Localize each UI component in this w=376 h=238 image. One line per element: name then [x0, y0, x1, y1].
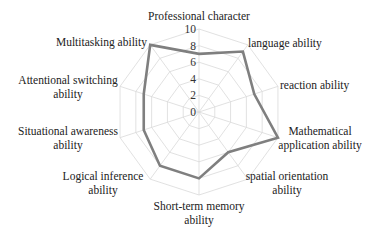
category-label: Short-term memoryability: [153, 200, 244, 227]
category-label: language ability: [248, 37, 322, 50]
radial-tick-labels: 0246810: [185, 23, 197, 118]
category-label: Multitasking ability: [56, 36, 147, 49]
grid-spoke: [120, 86, 199, 112]
radial-tick-label: 0: [190, 106, 196, 118]
grid-spoke: [120, 112, 199, 138]
grid-spoke: [199, 112, 248, 179]
radial-tick-label: 6: [190, 56, 196, 68]
grid-spoke: [199, 45, 248, 112]
category-label: Professional character: [148, 10, 250, 22]
radial-tick-label: 8: [190, 40, 196, 52]
grid-spoke: [150, 112, 199, 179]
category-label: Mathematicalapplication ability: [278, 125, 362, 152]
category-label: Situational awarenessability: [18, 125, 118, 152]
radar-chart: 0246810 Professional characterlanguage a…: [0, 0, 376, 238]
category-label: Attentional switchingability: [18, 74, 118, 101]
grid-spoke: [199, 86, 278, 112]
radial-tick-label: 4: [190, 73, 196, 85]
radial-tick-label: 2: [190, 89, 196, 101]
radial-tick-label: 10: [185, 23, 197, 35]
category-label: reaction ability: [280, 79, 350, 92]
category-label: Logical inferenceability: [63, 170, 144, 197]
category-label: spatial orientationability: [246, 170, 329, 197]
